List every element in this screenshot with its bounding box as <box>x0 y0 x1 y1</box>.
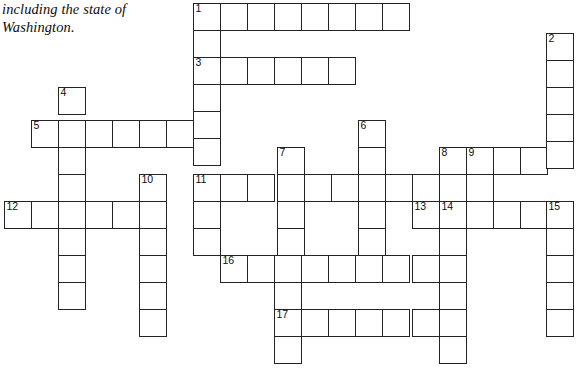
crossword-grid[interactable]: 1234568791011121314151617 <box>0 0 581 374</box>
grid-cell[interactable] <box>466 201 494 229</box>
grid-cell[interactable] <box>85 201 113 229</box>
grid-cell[interactable] <box>247 3 275 31</box>
grid-cell-numbered-8[interactable]: 8 <box>439 147 467 175</box>
grid-cell-numbered-16[interactable]: 16 <box>220 255 248 283</box>
grid-cell[interactable] <box>112 120 140 148</box>
grid-cell[interactable] <box>301 57 329 85</box>
grid-cell[interactable] <box>277 174 305 202</box>
grid-cell[interactable] <box>247 174 275 202</box>
grid-cell-numbered-10[interactable]: 10 <box>139 174 167 202</box>
grid-cell[interactable] <box>328 57 356 85</box>
grid-cell-numbered-11[interactable]: 11 <box>193 174 221 202</box>
grid-cell-numbered-1[interactable]: 1 <box>193 3 221 31</box>
grid-cell[interactable] <box>193 201 221 229</box>
grid-cell[interactable] <box>355 309 383 337</box>
grid-cell[interactable] <box>412 174 440 202</box>
grid-cell[interactable] <box>112 201 140 229</box>
grid-cell-numbered-3[interactable]: 3 <box>193 57 221 85</box>
grid-cell[interactable] <box>304 174 332 202</box>
grid-cell[interactable] <box>358 201 386 229</box>
grid-cell[interactable] <box>439 228 467 256</box>
grid-cell[interactable] <box>546 141 574 169</box>
grid-cell[interactable] <box>412 309 440 337</box>
grid-cell[interactable] <box>546 228 574 256</box>
grid-cell[interactable] <box>301 309 329 337</box>
grid-cell-numbered-2[interactable]: 2 <box>546 33 574 61</box>
grid-cell[interactable] <box>355 3 383 31</box>
grid-cell[interactable] <box>58 174 86 202</box>
grid-cell[interactable] <box>58 282 86 310</box>
grid-cell[interactable] <box>58 255 86 283</box>
grid-cell[interactable] <box>385 174 413 202</box>
grid-cell[interactable] <box>328 309 356 337</box>
grid-cell-numbered-5[interactable]: 5 <box>31 120 59 148</box>
grid-cell[interactable] <box>274 282 302 310</box>
grid-cell-numbered-4[interactable]: 4 <box>58 87 86 115</box>
grid-cell[interactable] <box>139 228 167 256</box>
grid-cell[interactable] <box>85 120 113 148</box>
grid-cell[interactable] <box>546 87 574 115</box>
grid-cell[interactable] <box>382 309 410 337</box>
grid-cell[interactable] <box>546 255 574 283</box>
grid-cell[interactable] <box>274 336 302 364</box>
grid-cell[interactable] <box>139 255 167 283</box>
grid-cell[interactable] <box>277 201 305 229</box>
grid-cell[interactable] <box>546 60 574 88</box>
grid-cell[interactable] <box>328 3 356 31</box>
grid-cell[interactable] <box>247 255 275 283</box>
grid-cell-numbered-7[interactable]: 7 <box>277 147 305 175</box>
grid-cell[interactable] <box>58 120 86 148</box>
grid-cell[interactable] <box>274 57 302 85</box>
grid-cell[interactable] <box>220 3 248 31</box>
grid-cell[interactable] <box>193 30 221 58</box>
grid-cell[interactable] <box>358 174 386 202</box>
grid-cell-numbered-15[interactable]: 15 <box>546 201 574 229</box>
grid-cell[interactable] <box>139 309 167 337</box>
grid-cell[interactable] <box>301 3 329 31</box>
grid-cell-numbered-17[interactable]: 17 <box>274 309 302 337</box>
grid-cell[interactable] <box>439 336 467 364</box>
grid-cell[interactable] <box>58 147 86 175</box>
grid-cell[interactable] <box>439 255 467 283</box>
grid-cell[interactable] <box>439 309 467 337</box>
grid-cell[interactable] <box>520 147 548 175</box>
grid-cell[interactable] <box>139 201 167 229</box>
grid-cell[interactable] <box>274 3 302 31</box>
grid-cell[interactable] <box>58 201 86 229</box>
grid-cell[interactable] <box>358 147 386 175</box>
grid-cell[interactable] <box>520 201 548 229</box>
grid-cell[interactable] <box>220 57 248 85</box>
grid-cell[interactable] <box>193 84 221 112</box>
grid-cell[interactable] <box>355 255 383 283</box>
grid-cell[interactable] <box>166 120 194 148</box>
grid-cell[interactable] <box>274 255 302 283</box>
grid-cell-numbered-6[interactable]: 6 <box>358 120 386 148</box>
grid-cell[interactable] <box>382 3 410 31</box>
grid-cell[interactable] <box>382 255 410 283</box>
grid-cell[interactable] <box>139 120 167 148</box>
grid-cell-numbered-12[interactable]: 12 <box>4 201 32 229</box>
grid-cell-numbered-9[interactable]: 9 <box>466 147 494 175</box>
grid-cell[interactable] <box>193 228 221 256</box>
grid-cell[interactable] <box>247 57 275 85</box>
grid-cell[interactable] <box>466 174 494 202</box>
grid-cell[interactable] <box>193 111 221 139</box>
grid-cell[interactable] <box>220 174 248 202</box>
grid-cell-numbered-13[interactable]: 13 <box>412 201 440 229</box>
grid-cell[interactable] <box>493 201 521 229</box>
grid-cell[interactable] <box>358 228 386 256</box>
grid-cell[interactable] <box>328 255 356 283</box>
grid-cell[interactable] <box>546 114 574 142</box>
grid-cell[interactable] <box>439 282 467 310</box>
grid-cell[interactable] <box>331 174 359 202</box>
grid-cell[interactable] <box>412 255 440 283</box>
grid-cell[interactable] <box>139 282 167 310</box>
grid-cell-numbered-14[interactable]: 14 <box>439 201 467 229</box>
grid-cell[interactable] <box>277 228 305 256</box>
grid-cell[interactable] <box>546 282 574 310</box>
grid-cell[interactable] <box>58 228 86 256</box>
grid-cell[interactable] <box>193 138 221 166</box>
grid-cell[interactable] <box>493 147 521 175</box>
grid-cell[interactable] <box>31 201 59 229</box>
grid-cell[interactable] <box>546 309 574 337</box>
